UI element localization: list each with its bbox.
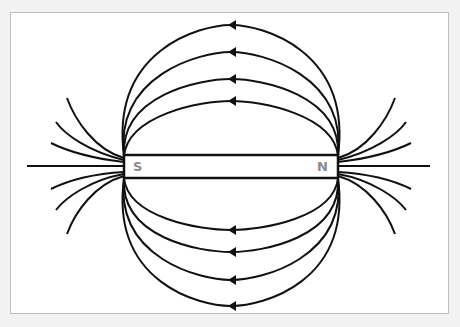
south-pole-label: S <box>133 159 142 174</box>
magnetic-field-diagram <box>0 0 460 327</box>
field-loop-top-1 <box>123 25 340 156</box>
north-pole-label: N <box>317 159 328 174</box>
bar-magnet <box>124 155 338 178</box>
